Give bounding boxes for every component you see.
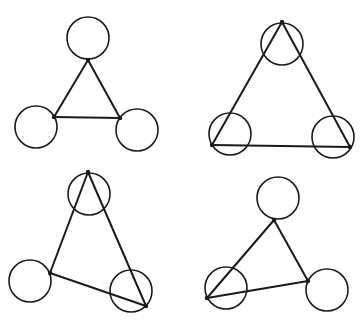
panel-bottom-left	[9, 170, 152, 312]
circle-1	[15, 106, 57, 148]
triangle-edge	[88, 172, 146, 306]
vertex-dot	[86, 58, 90, 62]
vertex-dot	[306, 279, 310, 283]
circle-0	[261, 23, 303, 65]
panel-top-left	[15, 17, 158, 151]
triangle-edge	[207, 281, 308, 298]
triangle-edge	[212, 145, 350, 147]
circle-1	[205, 267, 247, 309]
panel-top-right	[209, 20, 354, 158]
vertex-dot	[52, 115, 56, 119]
vertex-dot	[348, 145, 352, 149]
vertex-dot	[86, 170, 90, 174]
panel-bottom-right	[205, 177, 348, 311]
vertex-dot	[48, 271, 52, 275]
circle-1	[9, 260, 51, 302]
vertex-dot	[272, 218, 276, 222]
triangle-edge	[54, 60, 88, 117]
vertex-dot	[205, 296, 209, 300]
vertex-dot	[118, 116, 122, 120]
triangle-edge	[50, 273, 146, 306]
triangle-edge	[207, 220, 274, 298]
circle-0	[257, 177, 299, 219]
circle-2	[312, 116, 354, 158]
triangle-edge	[212, 22, 282, 145]
circle-2	[116, 109, 158, 151]
triangle-edge	[274, 220, 308, 281]
triangle-edge	[88, 60, 120, 118]
triangle-edge	[54, 117, 120, 118]
circle-1	[209, 113, 251, 155]
vertex-dot	[280, 20, 284, 24]
diagram-canvas	[0, 0, 364, 321]
triangle-edge	[282, 22, 350, 147]
circle-2	[306, 269, 348, 311]
circle-0	[67, 17, 109, 59]
vertex-dot	[144, 304, 148, 308]
vertex-dot	[210, 143, 214, 147]
